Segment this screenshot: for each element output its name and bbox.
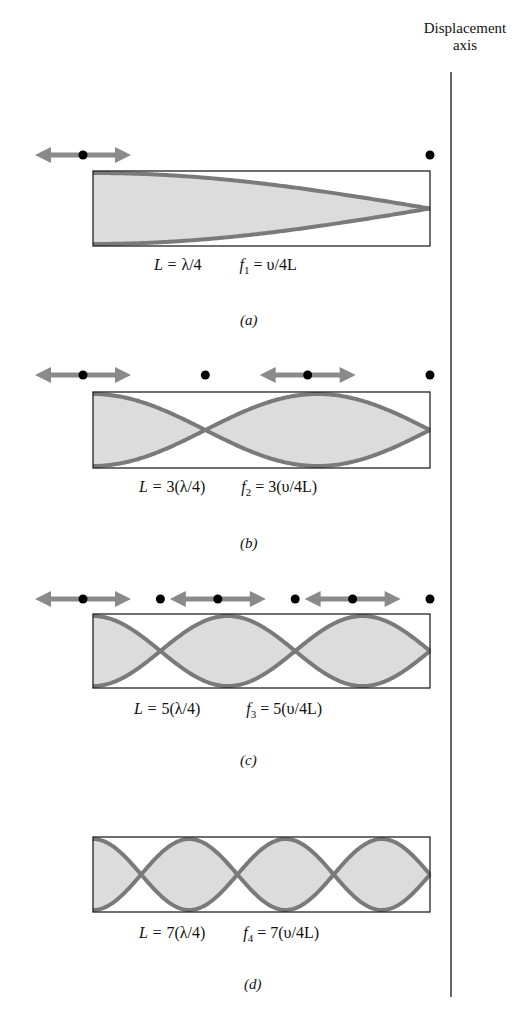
L-label: L = [154, 256, 181, 273]
arrow-head-right-icon [385, 591, 401, 607]
panel-a-equation: L = λ/4 f1 = υ/4L [154, 256, 297, 276]
antinode-dot [79, 595, 88, 604]
arrow-head-left-icon [35, 367, 51, 383]
arrow-head-left-icon [35, 147, 51, 163]
panel-d [93, 837, 430, 912]
arrow-head-left-icon [35, 591, 51, 607]
f-value: = 7(υ/4L) [253, 924, 319, 941]
axis-title-line1: Displacement [410, 20, 515, 37]
L-value: 7(λ/4) [166, 924, 205, 941]
standing-wave-diagram [0, 0, 515, 1028]
axis-title: Displacement axis [410, 20, 515, 54]
panel-b [35, 367, 435, 468]
node-dot [426, 151, 435, 160]
panel-c-equation: L = 5(λ/4) f3 = 5(υ/4L) [134, 700, 322, 720]
panel-d-caption: (d) [244, 976, 262, 993]
arrow-head-left-icon [305, 591, 321, 607]
panel-b-equation: L = 3(λ/4) f2 = 3(υ/4L) [139, 478, 317, 498]
antinode-dot [213, 595, 222, 604]
arrow-head-left-icon [170, 591, 186, 607]
node-dot [291, 595, 300, 604]
L-label: L = [139, 924, 166, 941]
panel-b-caption: (b) [240, 535, 258, 552]
antinode-dot [79, 151, 88, 160]
panel-c [35, 591, 435, 688]
arrow-head-right-icon [115, 367, 131, 383]
node-dot [426, 371, 435, 380]
panel-a-caption: (a) [240, 312, 258, 329]
f-value: = 3(υ/4L) [251, 478, 317, 495]
arrow-head-right-icon [340, 367, 356, 383]
arrow-head-left-icon [260, 367, 276, 383]
panel-d-equation: L = 7(λ/4) f4 = 7(υ/4L) [139, 924, 319, 944]
L-value: 5(λ/4) [161, 700, 200, 717]
antinode-dot [348, 595, 357, 604]
panel-a [35, 147, 435, 246]
L-label: L = [134, 700, 161, 717]
node-dot [201, 371, 210, 380]
node-dot [426, 595, 435, 604]
L-value: λ/4 [181, 256, 201, 273]
f-value: = υ/4L [250, 256, 297, 273]
antinode-dot [79, 371, 88, 380]
node-dot [156, 595, 165, 604]
antinode-dot [303, 371, 312, 380]
axis-title-line2: axis [410, 37, 515, 54]
arrow-head-right-icon [115, 147, 131, 163]
f-value: = 5(υ/4L) [256, 700, 322, 717]
panel-c-caption: (c) [240, 752, 257, 769]
L-label: L = [139, 478, 166, 495]
arrow-head-right-icon [250, 591, 266, 607]
arrow-head-right-icon [115, 591, 131, 607]
L-value: 3(λ/4) [166, 478, 205, 495]
